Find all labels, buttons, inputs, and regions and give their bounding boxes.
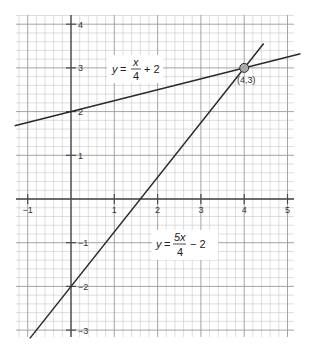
x-tick-label: 3: [198, 205, 203, 215]
eq2-rest: − 2: [190, 238, 206, 250]
x-tick-label: 2: [155, 205, 160, 215]
equation-label-line1: y = x 4 + 2: [107, 55, 163, 83]
x-tick-label: −1: [23, 205, 33, 215]
eq2-denominator: 4: [177, 246, 183, 258]
line-chart: −1123454321−1−2−3 y = x 4 + 2 y = 5x 4 −…: [0, 0, 316, 353]
eq1-equals: =: [120, 63, 126, 75]
x-tick-label: 5: [285, 205, 290, 215]
y-tick-label: −1: [78, 238, 88, 248]
equation-label-line2: y = 5x 4 − 2: [152, 230, 218, 260]
intersection-label: (4,3): [237, 75, 256, 85]
eq1-rest: + 2: [144, 63, 160, 75]
eq1-denominator: 4: [133, 70, 139, 82]
intersection-marker: [240, 63, 249, 72]
x-tick-label: 4: [242, 205, 247, 215]
y-tick-label: 1: [78, 151, 83, 161]
x-tick-label: 1: [112, 205, 117, 215]
eq1-numerator: x: [132, 56, 139, 68]
y-tick-label: 3: [78, 63, 83, 73]
series-line-2: [30, 43, 264, 338]
y-tick-label: −3: [78, 326, 88, 336]
eq2-equals: =: [164, 238, 170, 250]
y-tick-label: 4: [78, 20, 83, 30]
y-tick-label: −2: [78, 282, 88, 292]
eq2-numerator: 5x: [174, 231, 186, 243]
